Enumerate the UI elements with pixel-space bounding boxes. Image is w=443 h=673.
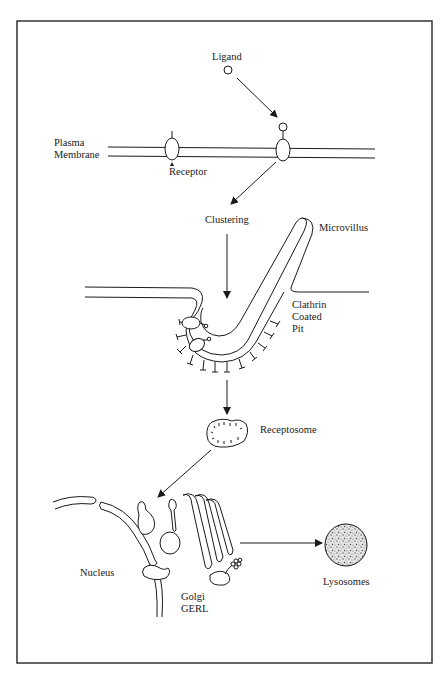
ligand-binding-arrow — [237, 78, 277, 117]
golgi-label-2: GERL — [181, 603, 208, 614]
bound-receptor-icon — [276, 123, 290, 161]
ligand-icon — [224, 66, 232, 74]
lysosome-icon — [325, 524, 367, 566]
ligand-label: Ligand — [212, 51, 242, 62]
golgi-apparatus — [138, 494, 242, 585]
plasma-membrane-label-1: Plasma — [54, 137, 85, 148]
clathrin-label-3: Pit — [292, 323, 304, 334]
to-golgi-arrow — [158, 450, 211, 497]
clathrin-label-2: Coated — [292, 311, 322, 322]
clathrin-label-1: Clathrin — [292, 299, 327, 310]
clustering-label: Clustering — [205, 214, 249, 225]
nucleus-label: Nucleus — [80, 567, 114, 578]
receptor-icon — [165, 131, 179, 160]
endocytosis-diagram: Ligand Plasma Membrane Receptor Clusteri… — [0, 0, 443, 673]
plasma-membrane — [108, 147, 375, 158]
receptosome-icon — [207, 419, 248, 447]
to-clustering-arrow — [231, 162, 276, 204]
receptor-label: Receptor — [169, 166, 207, 177]
golgi-label-1: Golgi — [181, 591, 205, 602]
plasma-membrane-label-2: Membrane — [54, 149, 100, 160]
receptosome-label: Receptosome — [260, 424, 317, 435]
lysosomes-label: Lysosomes — [323, 576, 370, 587]
microvillus-label: Microvillus — [319, 222, 368, 233]
